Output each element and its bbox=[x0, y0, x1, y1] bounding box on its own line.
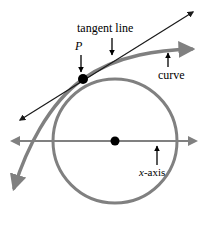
point-p-label: P bbox=[75, 40, 82, 52]
curve-label: curve bbox=[158, 69, 185, 81]
circle-center-dot bbox=[111, 137, 120, 146]
x-axis-label-suffix: -axis bbox=[144, 166, 165, 178]
x-axis-label: x-axis bbox=[139, 167, 165, 178]
tangent-line-figure: tangent line curve P x-axis bbox=[0, 0, 210, 226]
tangent-point-p-dot bbox=[78, 74, 88, 84]
tangent-line-label: tangent line bbox=[77, 22, 133, 34]
